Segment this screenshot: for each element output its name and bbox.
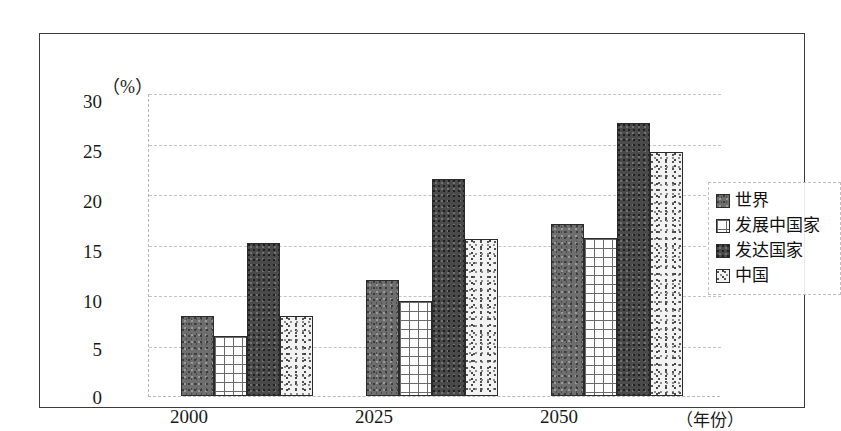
bar-2025-world[interactable] xyxy=(366,280,399,396)
y-tick-label-25: 25 xyxy=(58,142,102,161)
bar-2025-developing[interactable] xyxy=(399,301,432,396)
bar-2000-developing[interactable] xyxy=(214,336,247,396)
bar-group-2000 xyxy=(181,93,314,396)
plot-area xyxy=(148,94,720,397)
chart-figure-frame: （%） 30 25 20 15 10 5 0 xyxy=(39,33,805,408)
bar-2000-world[interactable] xyxy=(181,316,214,396)
x-tick-label-2025: 2025 xyxy=(314,406,434,428)
bar-2000-china[interactable] xyxy=(280,316,313,396)
bar-group-2025 xyxy=(366,93,499,396)
bar-2050-world[interactable] xyxy=(551,224,584,396)
legend-label-china: 中国 xyxy=(735,267,769,284)
y-tick-label-30: 30 xyxy=(58,92,102,111)
x-tick-label-2000: 2000 xyxy=(129,406,249,428)
bar-group-2050 xyxy=(551,93,684,396)
legend-item-china[interactable]: 中国 xyxy=(716,263,834,288)
legend-item-world[interactable]: 世界 xyxy=(716,188,834,213)
legend-swatch-china-icon xyxy=(716,269,730,283)
y-tick-label-0: 0 xyxy=(58,388,102,407)
legend-swatch-world-icon xyxy=(716,194,730,208)
chart-legend: 世界 发展中国家 发达国家 中国 xyxy=(708,182,841,295)
legend-label-developed: 发达国家 xyxy=(735,242,803,259)
legend-label-developing: 发展中国家 xyxy=(735,217,820,234)
y-tick-label-15: 15 xyxy=(58,242,102,261)
bar-2025-developed[interactable] xyxy=(432,179,465,396)
y-tick-label-20: 20 xyxy=(58,192,102,211)
bar-2050-developed[interactable] xyxy=(617,123,650,396)
legend-swatch-developed-icon xyxy=(716,244,730,258)
legend-item-developing[interactable]: 发展中国家 xyxy=(716,213,834,238)
legend-swatch-developing-icon xyxy=(716,219,730,233)
bar-2000-developed[interactable] xyxy=(247,243,280,397)
bar-2025-china[interactable] xyxy=(465,239,498,396)
y-tick-label-5: 5 xyxy=(58,340,102,359)
x-tick-label-2050: 2050 xyxy=(499,406,619,428)
y-tick-label-10: 10 xyxy=(58,292,102,311)
y-axis-unit-label: （%） xyxy=(102,72,153,98)
bar-2050-developing[interactable] xyxy=(584,238,617,396)
legend-item-developed[interactable]: 发达国家 xyxy=(716,238,834,263)
bar-2050-china[interactable] xyxy=(650,152,683,396)
x-axis-title: （年份） xyxy=(676,406,744,431)
legend-label-world: 世界 xyxy=(735,192,769,209)
